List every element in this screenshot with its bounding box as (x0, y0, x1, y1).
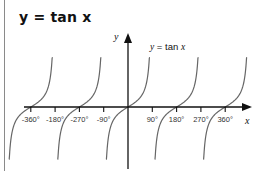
x-tick-label: -270° (70, 115, 88, 124)
x-axis-arrow-icon (242, 103, 252, 111)
x-tick-label: 270° (193, 115, 209, 124)
y-axis-arrow-icon (124, 33, 132, 43)
x-tick-label: 90° (147, 115, 158, 124)
x-tick-label: 360° (217, 115, 233, 124)
y-axis-label: y (113, 31, 119, 42)
curve-label: y = tan x (149, 41, 186, 52)
x-tick-label: -90° (97, 115, 111, 124)
x-tick-label: -180° (46, 115, 64, 124)
x-tick-label: -360° (22, 115, 40, 124)
x-tick-label: 180° (169, 115, 185, 124)
x-axis-label: x (244, 115, 250, 126)
tan-graph: -360°-180°-270°-90°90°180°270°360° y x y… (0, 0, 267, 171)
